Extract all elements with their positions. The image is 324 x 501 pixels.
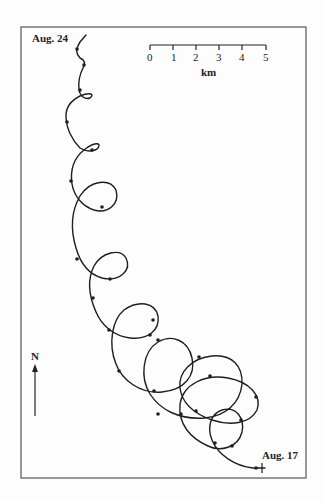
north-arrow: N <box>31 350 39 416</box>
drift-track-svg: Aug. 24 Aug. 17 0 1 2 3 4 5 km N <box>0 0 324 501</box>
start-date-label: Aug. 17 <box>262 449 299 461</box>
scale-tick-5: 5 <box>263 51 269 63</box>
scale-unit-label: km <box>201 66 216 78</box>
scale-tick-1: 1 <box>171 51 177 63</box>
north-label: N <box>31 350 39 362</box>
figure-frame <box>21 27 306 478</box>
scale-tick-2: 2 <box>193 51 199 63</box>
scale-tick-4: 4 <box>239 51 245 63</box>
end-date-label: Aug. 24 <box>32 32 69 44</box>
north-arrowhead-icon <box>32 364 38 372</box>
drift-track-figure: Aug. 24 Aug. 17 0 1 2 3 4 5 km N <box>0 0 324 501</box>
scale-tick-0: 0 <box>147 51 153 63</box>
drift-track-path <box>66 35 265 468</box>
scale-bar: 0 1 2 3 4 5 km <box>147 45 269 78</box>
scale-tick-3: 3 <box>216 51 222 63</box>
